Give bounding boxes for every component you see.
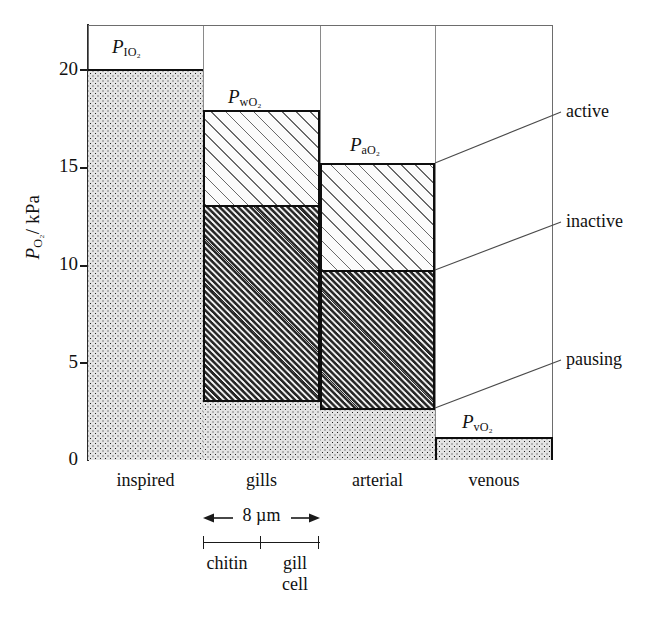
category-label-gills: gills bbox=[203, 470, 320, 491]
category-label-venous: venous bbox=[435, 470, 553, 491]
bar-gills-active bbox=[203, 110, 320, 205]
scale-distance-label: 8 µm bbox=[203, 505, 320, 526]
scale-label-chitin: chitin bbox=[193, 553, 261, 574]
bar-gills-inactive bbox=[203, 205, 320, 400]
legend-label-active: active bbox=[566, 101, 609, 122]
bar-label-inspired: PIO₂ bbox=[112, 36, 141, 60]
y-axis-title: PO₂/ kPa bbox=[22, 157, 46, 297]
scale-tick-right bbox=[318, 536, 319, 549]
scale-label-gill-cell-line1: gill bbox=[283, 553, 307, 573]
oxygen-cascade-figure: PO₂/ kPa 20 15 10 5 0 PIO₂ PwO₂ PaO₂ PvO… bbox=[0, 0, 666, 627]
scale-label-gill-cell: gill cell bbox=[261, 553, 329, 594]
y-tick-label-10: 10 bbox=[36, 253, 78, 275]
bar-label-venous: PvO₂ bbox=[462, 411, 493, 435]
bar-label-arterial-subscript: aO₂ bbox=[362, 143, 380, 157]
scale-tick-baseline bbox=[203, 542, 320, 543]
bar-inspired-pausing bbox=[88, 69, 203, 460]
bar-label-arterial: PaO₂ bbox=[350, 134, 380, 158]
y-tick-label-0: 0 bbox=[36, 448, 78, 470]
y-axis-title-subscript: O₂ bbox=[31, 234, 45, 247]
y-axis-title-unit: / kPa bbox=[22, 195, 43, 235]
category-label-inspired: inspired bbox=[88, 470, 203, 491]
bar-arterial-active bbox=[320, 163, 435, 270]
bar-label-gills-subscript: wO₂ bbox=[240, 95, 262, 109]
bar-arterial-inactive bbox=[320, 270, 435, 408]
scale-bar-group: 8 µm chitin gill cell bbox=[203, 505, 320, 597]
bar-label-arterial-symbol: P bbox=[350, 134, 362, 155]
bar-gills-pausing bbox=[203, 400, 320, 460]
column-separator-3 bbox=[435, 26, 436, 459]
category-label-arterial: arterial bbox=[320, 470, 435, 491]
bar-label-venous-symbol: P bbox=[462, 411, 474, 432]
scale-tick-left bbox=[203, 536, 204, 549]
scale-arrow-row: 8 µm bbox=[203, 505, 320, 531]
scale-sublabel-row: chitin gill cell bbox=[203, 553, 320, 597]
y-tick-label-5: 5 bbox=[36, 351, 78, 373]
y-tick-label-15: 15 bbox=[36, 155, 78, 177]
legend-label-pausing: pausing bbox=[566, 349, 622, 370]
bar-label-inspired-subscript: IO₂ bbox=[124, 45, 141, 59]
bar-label-venous-subscript: vO₂ bbox=[474, 420, 493, 434]
bar-arterial-pausing bbox=[320, 408, 435, 460]
legend-label-inactive: inactive bbox=[566, 211, 623, 232]
bar-label-gills: PwO₂ bbox=[228, 86, 261, 110]
scale-tick-middle bbox=[260, 536, 261, 549]
bar-label-inspired-symbol: P bbox=[112, 36, 124, 57]
bar-label-gills-symbol: P bbox=[228, 86, 240, 107]
bar-venous-pausing bbox=[435, 437, 553, 460]
scale-tick-row bbox=[203, 535, 320, 551]
y-tick-label-20: 20 bbox=[36, 58, 78, 80]
scale-label-gill-cell-line2: cell bbox=[282, 574, 308, 594]
